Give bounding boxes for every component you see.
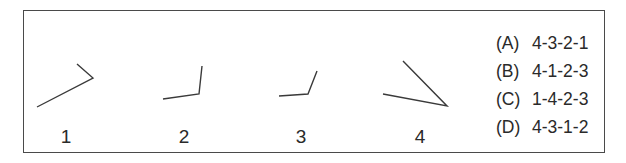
option-letter: (A) bbox=[496, 33, 532, 54]
figure-label-3: 3 bbox=[291, 126, 311, 148]
option-a[interactable]: (A)4-3-2-1 bbox=[496, 33, 588, 54]
option-sequence: 4-3-2-1 bbox=[532, 33, 588, 53]
option-d[interactable]: (D)4-3-1-2 bbox=[496, 117, 588, 138]
figure-label-1: 1 bbox=[56, 126, 76, 148]
figure-4-bent-line bbox=[383, 61, 447, 106]
option-c[interactable]: (C)1-4-2-3 bbox=[496, 89, 588, 110]
option-sequence: 4-3-1-2 bbox=[532, 117, 588, 137]
option-b[interactable]: (B)4-1-2-3 bbox=[496, 61, 588, 82]
option-letter: (B) bbox=[496, 61, 532, 82]
figure-2-bent-line bbox=[163, 66, 202, 99]
figure-3-bent-line bbox=[279, 71, 317, 96]
option-letter: (D) bbox=[496, 117, 532, 138]
option-sequence: 1-4-2-3 bbox=[532, 89, 588, 109]
option-letter: (C) bbox=[496, 89, 532, 110]
figure-1-bent-line bbox=[37, 64, 93, 107]
figure-label-4: 4 bbox=[410, 126, 430, 148]
option-sequence: 4-1-2-3 bbox=[532, 61, 588, 81]
figure-label-2: 2 bbox=[174, 126, 194, 148]
